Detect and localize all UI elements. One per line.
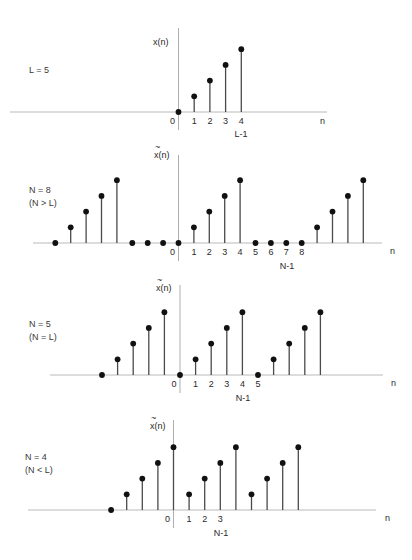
panel-n8-tilde-mark: ~: [155, 142, 160, 152]
panel-n8-stem-dot: [114, 177, 120, 183]
panel-original-period-label: L-1: [234, 129, 247, 139]
stem-plots: x(n)L = 5n01234L-1x(n)~N = 8(N > L)n0123…: [0, 0, 412, 560]
panel-original-tick-label: 1: [192, 116, 197, 126]
panel-n8-stem-dot: [176, 240, 182, 246]
panel-n4-stem-dot: [217, 460, 223, 466]
panel-n8-stem-dot: [283, 240, 289, 246]
panel-n8-stem-dot: [299, 240, 305, 246]
panel-n5-stem-dot: [302, 325, 308, 331]
panel-n4-tilde-mark: ~: [151, 413, 156, 423]
panel-n8-stem-dot: [253, 240, 259, 246]
panel-n5-side-label: (N = L): [29, 332, 57, 342]
panel-n8-period-label: N-1: [280, 261, 295, 271]
panel-n5-stem-dot: [318, 309, 324, 315]
panel-n5-stem-dot: [255, 372, 261, 378]
panel-n5-tick-label: 4: [240, 379, 245, 389]
panel-n5-stem-dot: [115, 356, 121, 362]
panel-n4-stem-dot: [202, 476, 208, 482]
panel-n4-stem-dot: [280, 460, 286, 466]
panel-n5-tick-label: 2: [209, 379, 214, 389]
panel-n5-period-label: N-1: [236, 393, 251, 403]
panel-original-stem-dot: [223, 62, 229, 68]
panel-n4-stem-dot: [249, 491, 255, 497]
panel-n8-stem-dot: [222, 193, 228, 199]
panel-n4-stem-dot: [295, 444, 301, 450]
panel-n4-tick-label: 3: [218, 514, 223, 524]
panel-n8-tick-label: 7: [284, 247, 289, 257]
panel-original-side-label: L = 5: [29, 65, 49, 75]
panel-n8-side-label: N = 8: [29, 185, 51, 195]
panel-original-tick-label: 0: [170, 116, 175, 126]
panel-n4-n-label: n: [385, 513, 390, 523]
panel-n8-stem-dot: [360, 177, 366, 183]
panel-n8-tick-label: 2: [207, 247, 212, 257]
panel-original-stem-dot: [238, 46, 244, 52]
panel-n4-tick-label: 1: [187, 514, 192, 524]
panel-n5-side-label: N = 5: [29, 319, 51, 329]
panel-original-tick-label: 2: [207, 116, 212, 126]
panel-n8-tick-label: 0: [170, 247, 175, 257]
panel-n4-tick-label: 0: [165, 514, 170, 524]
panel-n5-stem-dot: [224, 325, 230, 331]
panel-n8-tick-label: 5: [253, 247, 258, 257]
panel-n8-stem-dot: [345, 193, 351, 199]
panel-n8-stem-dot: [206, 209, 212, 215]
panel-n4-stem-dot: [139, 476, 145, 482]
panel-n5-stem-dot: [177, 372, 183, 378]
panel-original-y-label: x(n): [153, 37, 169, 47]
panel-n4-period-label: N-1: [214, 528, 229, 538]
panel-n8-stem-dot: [314, 224, 320, 230]
panel-n5-stem-dot: [146, 325, 152, 331]
panel-n5-stem-dot: [271, 356, 277, 362]
panel-n8-stem-dot: [330, 209, 336, 215]
panel-n5-stem-dot: [240, 309, 246, 315]
panel-n4-stem-dot: [233, 444, 239, 450]
panel-n8-stem-dot: [145, 240, 151, 246]
panel-n5-stem-dot: [130, 341, 136, 347]
panel-n4-tick-label: 2: [202, 514, 207, 524]
panel-n8-stem-dot: [160, 240, 166, 246]
panel-n8-tick-label: 3: [222, 247, 227, 257]
panel-n4-side-label: N = 4: [25, 452, 47, 462]
panel-n8-n-label: n: [390, 246, 395, 256]
panel-n4-stem-dot: [155, 460, 161, 466]
panel-n5-tick-label: 5: [255, 379, 260, 389]
panel-n8-tick-label: 1: [191, 247, 196, 257]
panel-original-stem-dot: [176, 109, 182, 115]
panel-n5-n-label: n: [391, 378, 396, 388]
panel-n5-stem-dot: [99, 372, 105, 378]
panel-n4-stem-dot: [124, 491, 130, 497]
panel-original-tick-label: 3: [223, 116, 228, 126]
panel-n4-side-label: (N < L): [25, 465, 53, 475]
panel-n8-stem-dot: [191, 224, 197, 230]
panel-n5-tilde-mark: ~: [157, 275, 162, 285]
panel-n4-stem-dot: [171, 444, 177, 450]
panel-n5-tick-label: 1: [193, 379, 198, 389]
panel-n8-stem-dot: [52, 240, 58, 246]
panel-n4-stem-dot: [264, 476, 270, 482]
panel-n8-stem-dot: [83, 209, 89, 215]
panel-original-tick-label: 4: [239, 116, 244, 126]
panel-n4-stem-dot: [108, 507, 114, 513]
panel-n8-stem-dot: [68, 224, 74, 230]
panel-n8-tick-label: 4: [238, 247, 243, 257]
panel-n5-stem-dot: [286, 341, 292, 347]
panel-n8-tick-label: 8: [299, 247, 304, 257]
panel-n8-side-label: (N > L): [29, 198, 57, 208]
panel-n5-tick-label: 3: [224, 379, 229, 389]
panel-n8-stem-dot: [268, 240, 274, 246]
panel-original-n-label: n: [320, 116, 325, 126]
panel-original-stem-dot: [191, 93, 197, 99]
figure: x(n)L = 5n01234L-1x(n)~N = 8(N > L)n0123…: [0, 0, 412, 560]
panel-n5-stem-dot: [193, 356, 199, 362]
panel-n4-stem-dot: [186, 491, 192, 497]
panel-n5-stem-dot: [208, 341, 214, 347]
panel-n8-stem-dot: [237, 177, 243, 183]
panel-n5-stem-dot: [162, 309, 168, 315]
panel-n8-tick-label: 6: [268, 247, 273, 257]
panel-n8-stem-dot: [129, 240, 135, 246]
panel-n5-tick-label: 0: [171, 379, 176, 389]
panel-original-stem-dot: [207, 78, 213, 84]
panel-n8-stem-dot: [99, 193, 105, 199]
